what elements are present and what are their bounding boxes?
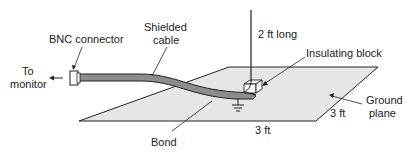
antenna-test-setup-diagram bbox=[0, 0, 408, 153]
label-to-monitor-2: monitor bbox=[10, 78, 47, 91]
label-bnc-connector: BNC connector bbox=[49, 33, 124, 46]
label-antenna-length: 2 ft long bbox=[258, 28, 297, 41]
label-dim-width: 3 ft bbox=[255, 124, 270, 137]
label-ground-plane-2: plane bbox=[369, 107, 396, 120]
label-shielded-cable-1: Shielded bbox=[144, 21, 187, 34]
arrow-head-icon bbox=[49, 76, 54, 81]
label-ground-plane-1: Ground bbox=[366, 94, 403, 107]
label-bond: Bond bbox=[151, 136, 177, 149]
bnc-connector-collar bbox=[77, 73, 80, 83]
leader-cable bbox=[152, 47, 167, 76]
label-insulating-block: Insulating block bbox=[306, 47, 382, 60]
label-to-monitor-1: To bbox=[22, 65, 34, 78]
leader-bnc-arrow-icon bbox=[72, 65, 76, 70]
leader-bnc bbox=[74, 47, 82, 68]
label-shielded-cable-2: cable bbox=[153, 34, 179, 47]
label-dim-depth: 3 ft bbox=[330, 107, 345, 120]
